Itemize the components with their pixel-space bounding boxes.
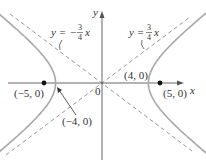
svg-text:3: 3 <box>147 23 151 32</box>
x-axis-label: x <box>189 84 195 96</box>
origin-label: 0 <box>95 85 101 97</box>
vertex-left-leader-arrow-icon <box>57 87 62 93</box>
svg-text:y =: y = <box>128 26 144 38</box>
svg-text:4: 4 <box>78 33 82 42</box>
svg-text:y =: y = <box>50 26 66 38</box>
vertex-left-leader <box>59 90 76 115</box>
hyperbola-branch-right <box>148 0 206 160</box>
svg-text:x: x <box>153 26 159 38</box>
svg-text:x: x <box>84 26 90 38</box>
svg-text:−: − <box>70 26 76 38</box>
vertex-left-label: (−4, 0) <box>62 115 92 128</box>
svg-text:3: 3 <box>78 23 82 32</box>
diagram-canvas: y x 0 (−5, 0) (−4, 0) (4, 0) (5, 0) y = … <box>0 0 206 160</box>
svg-text:4: 4 <box>147 33 151 42</box>
focus-right-point <box>158 81 163 86</box>
x-axis-arrow-icon <box>177 81 184 86</box>
focus-left-label: (−5, 0) <box>14 87 44 100</box>
asymptote-negative <box>10 14 192 151</box>
focus-left-point <box>42 81 47 86</box>
hyperbola-diagram: y x 0 (−5, 0) (−4, 0) (4, 0) (5, 0) y = … <box>0 0 206 160</box>
hyperbola-branch-left <box>0 0 56 160</box>
asymptote-negative-label: y = − 3 4 x <box>50 23 90 50</box>
vertex-right-label: (4, 0) <box>124 69 148 82</box>
y-axis-arrow-icon <box>100 11 105 18</box>
y-axis-label: y <box>92 6 98 18</box>
focus-right-label: (5, 0) <box>163 87 187 100</box>
asymptote-positive-label: y = 3 4 x <box>128 23 159 49</box>
